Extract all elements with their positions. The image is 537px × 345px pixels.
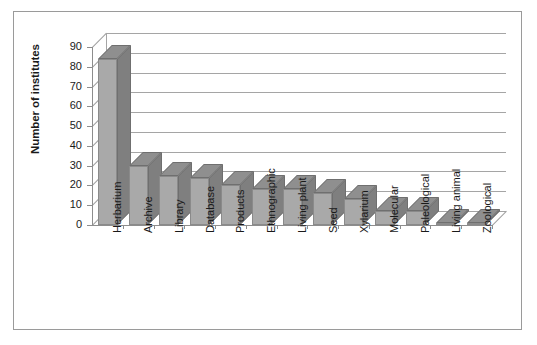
gridline — [106, 33, 506, 34]
y-axis-tick-label: 80 — [56, 61, 82, 72]
x-axis-tick-label: Database — [205, 186, 216, 233]
x-axis-tick-label: Library — [174, 199, 185, 233]
x-axis-tick-label: Living plant — [297, 177, 308, 233]
y-axis-tick-label: 40 — [56, 140, 82, 151]
chart-screenshot: Number of institutes 9080706050403020100… — [0, 0, 537, 345]
y-axis-tick-label: 0 — [56, 219, 82, 230]
y-axis-tick-label: 90 — [56, 41, 82, 52]
x-axis-tick-label: Seed — [328, 207, 339, 233]
depth-gridline — [92, 33, 107, 48]
x-axis-tick-label: Xylarium — [359, 190, 370, 233]
plot-area: 9080706050403020100 HerbariumArchiveLibr… — [0, 0, 537, 345]
x-axis-tick-label: Living animal — [451, 169, 462, 233]
x-axis-tick-label: Paleological — [420, 174, 431, 233]
gridline — [106, 112, 506, 113]
y-axis-tick-label: 70 — [56, 81, 82, 92]
y-axis-tick-label: 20 — [56, 179, 82, 190]
gridline — [106, 132, 506, 133]
y-axis-line — [92, 47, 93, 225]
y-axis-tick-label: 30 — [56, 160, 82, 171]
y-axis-tick-label: 50 — [56, 120, 82, 131]
gridline — [106, 73, 506, 74]
x-axis-tick-label: Products — [235, 190, 246, 233]
gridline — [106, 152, 506, 153]
x-axis-tick-label: Archive — [143, 196, 154, 233]
x-axis-tick-label: Herbarium — [112, 182, 123, 233]
x-axis-tick-label: Ethnographic — [266, 168, 277, 233]
x-axis-tick-label: Molecular — [389, 185, 400, 233]
y-axis-tick-label: 10 — [56, 199, 82, 210]
x-axis-tick-label: Zoological — [482, 183, 493, 233]
gridline — [106, 92, 506, 93]
y-axis-tick-label: 60 — [56, 100, 82, 111]
gridline — [106, 53, 506, 54]
